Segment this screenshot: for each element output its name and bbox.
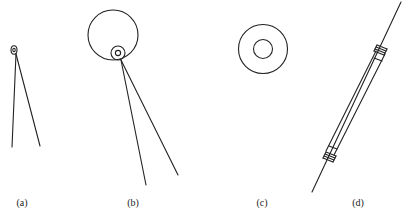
panel-b-right-line: [121, 60, 178, 175]
panel-d-bottom-coil: [323, 152, 336, 162]
panel-b-left-line: [121, 60, 146, 185]
panel-c-label: (c): [256, 197, 267, 208]
panel-d-top-cap-edge: [374, 58, 382, 61]
panel-c-outer-circle: [239, 25, 288, 74]
panel-b-drawing: [88, 10, 178, 185]
figure-canvas: (a) (b) (c) (d): [0, 0, 409, 214]
panel-b-large-circle: [88, 10, 138, 60]
panel-d-tube-rail-right: [334, 54, 385, 155]
panel-a-inner-loop: [13, 48, 15, 52]
panel-a-label: (a): [16, 197, 27, 208]
panel-b-label: (b): [127, 197, 139, 208]
panel-a-drawing: [11, 46, 40, 147]
panel-a-left-line: [12, 54, 16, 147]
panel-b-small-ring-inner: [115, 50, 120, 55]
panel-d-tube-rail-left: [326, 51, 376, 151]
panel-d-thread-line: [312, 2, 401, 192]
panel-a-right-line: [16, 54, 40, 146]
panel-c-drawing: [239, 25, 288, 74]
panel-c-inner-circle: [254, 40, 273, 59]
figure-drawing: [0, 0, 409, 214]
panel-d-drawing: [312, 2, 401, 192]
panel-d-label: (d): [352, 197, 364, 208]
panel-b-small-ring-outer: [111, 46, 125, 60]
panel-a-loop: [11, 46, 17, 54]
panel-d-top-coil: [374, 45, 387, 55]
